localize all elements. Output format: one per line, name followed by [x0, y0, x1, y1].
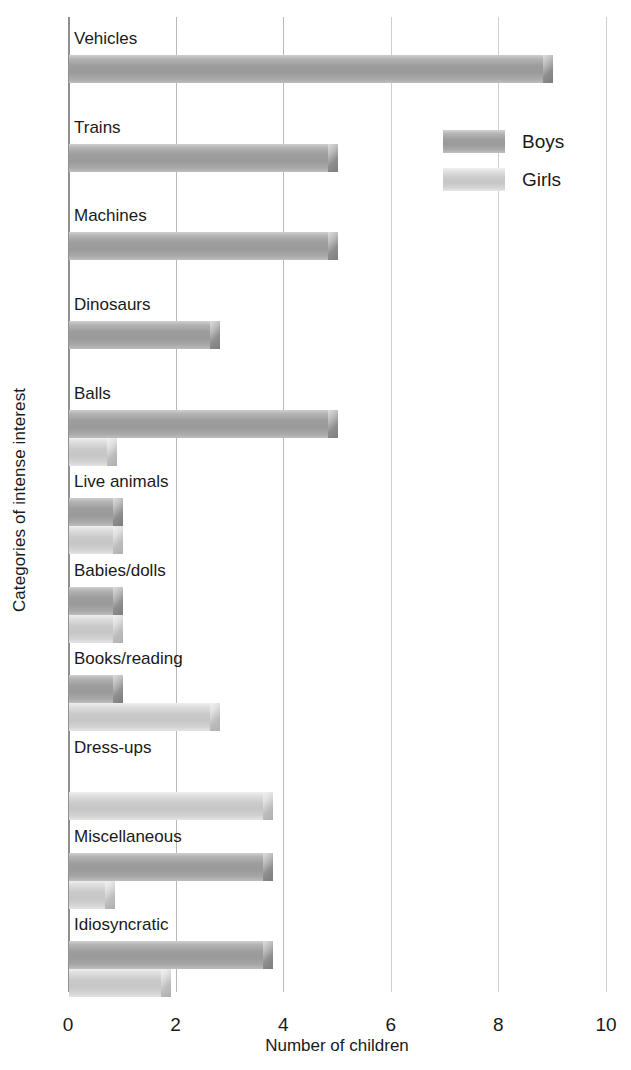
bar-cap: [328, 232, 338, 260]
x-tick-label-6: 6: [371, 1014, 411, 1036]
bar-boys: [69, 232, 338, 260]
bar-girls: [69, 703, 220, 731]
gridline-10: [606, 17, 607, 992]
category-label: Dress-ups: [74, 739, 151, 756]
bar-girls: [69, 438, 117, 466]
x-tick-label-4: 4: [263, 1014, 303, 1036]
bar-body: [69, 941, 263, 969]
legend-item-girls[interactable]: Girls: [443, 166, 564, 193]
bar-girls: [69, 526, 123, 554]
bar-boys: [69, 321, 220, 349]
category-label: Idiosyncratic: [74, 916, 168, 933]
x-tick-label-8: 8: [478, 1014, 518, 1036]
bar-boys: [69, 55, 553, 83]
bar-boys: [69, 941, 273, 969]
bar-body: [69, 881, 105, 909]
bar-body: [69, 55, 543, 83]
bar-body: [69, 438, 107, 466]
bar-body: [69, 410, 328, 438]
bar-body: [69, 615, 113, 643]
bar-boys: [69, 853, 273, 881]
bar-cap: [113, 587, 123, 615]
bar-boys: [69, 410, 338, 438]
legend-swatch-girls-icon: [443, 168, 505, 191]
bar-body: [69, 792, 263, 820]
bar-boys: [69, 587, 123, 615]
bar-girls: [69, 969, 171, 997]
legend-swatch-boys-icon: [443, 130, 505, 153]
legend-item-boys[interactable]: Boys: [443, 128, 564, 155]
bar-cap: [113, 526, 123, 554]
bar-cap: [113, 615, 123, 643]
category-label: Live animals: [74, 473, 169, 490]
bar-body: [69, 526, 113, 554]
category-label: Trains: [74, 119, 121, 136]
x-tick-label-10: 10: [586, 1014, 626, 1036]
bar-body: [69, 703, 210, 731]
category-label: Balls: [74, 385, 111, 402]
category-label: Babies/dolls: [74, 562, 166, 579]
bar-body: [69, 232, 328, 260]
bar-cap: [210, 321, 220, 349]
legend-label-girls: Girls: [522, 169, 561, 191]
bar-body: [69, 498, 113, 526]
bar-cap: [328, 410, 338, 438]
x-tick-label-0: 0: [48, 1014, 88, 1036]
category-label: Dinosaurs: [74, 296, 151, 313]
category-label: Books/reading: [74, 650, 183, 667]
bar-cap: [161, 969, 171, 997]
category-label: Vehicles: [74, 30, 137, 47]
bar-cap: [210, 703, 220, 731]
bar-boys: [69, 498, 123, 526]
bar-body: [69, 853, 263, 881]
legend-label-boys: Boys: [522, 131, 564, 153]
bar-cap: [113, 498, 123, 526]
category-label: Miscellaneous: [74, 828, 182, 845]
bar-girls: [69, 881, 115, 909]
bar-cap: [328, 144, 338, 172]
bar-body: [69, 587, 113, 615]
bar-cap: [543, 55, 553, 83]
bar-girls: [69, 792, 273, 820]
bar-cap: [263, 792, 273, 820]
chart-legend: Boys Girls: [443, 128, 564, 204]
y-axis-title-text: Categories of intense interest: [10, 388, 30, 612]
bar-cap: [105, 881, 115, 909]
bar-cap: [263, 853, 273, 881]
bar-cap: [263, 941, 273, 969]
x-axis-title: Number of children: [68, 1036, 606, 1056]
bar-body: [69, 144, 328, 172]
category-label: Machines: [74, 207, 147, 224]
bar-girls: [69, 615, 123, 643]
bar-body: [69, 675, 113, 703]
y-axis-title: Categories of intense interest: [0, 0, 40, 1000]
gridline-6: [391, 17, 392, 992]
bar-boys: [69, 144, 338, 172]
x-tick-label-2: 2: [156, 1014, 196, 1036]
bar-chart: Categories of intense interest 0246810Ve…: [0, 0, 631, 1070]
bar-body: [69, 969, 161, 997]
bar-boys: [69, 675, 123, 703]
bar-cap: [113, 675, 123, 703]
bar-cap: [107, 438, 117, 466]
bar-body: [69, 321, 210, 349]
